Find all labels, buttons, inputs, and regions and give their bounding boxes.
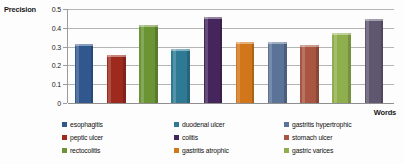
legend-item[interactable]: rectocolitis [62,147,174,154]
legend-item[interactable]: gastritis atrophic [174,147,284,154]
y-axis-tick-label: 0 [57,100,61,107]
bar-highlight [237,42,240,103]
y-axis-tick-mark [63,65,67,66]
bar-highlight [108,55,111,103]
bar-shadow [252,42,255,103]
bar-shadow [155,25,158,103]
bar[interactable] [204,17,223,103]
bar-top-cap [268,42,287,44]
bar-shadow [123,55,126,103]
legend-item[interactable]: esophagitis [62,121,174,128]
y-axis-tick-label: 0.5 [52,6,61,13]
bar-slot [132,9,164,103]
y-axis-tick-label: 0.3 [52,43,61,50]
legend-swatch-icon [62,135,67,140]
bar-top-cap [332,33,351,35]
x-axis-line [68,103,394,104]
legend-label: duodenal ulcer [182,121,225,128]
chart-legend: esophagitisduodenal ulcergastritis hyper… [62,118,382,157]
y-axis-tick-label: 0.1 [52,81,61,88]
legend-item[interactable]: gastric varices [284,147,382,154]
bar-slot [326,9,358,103]
legend-label: esophagitis [70,121,103,128]
bar-shadow [91,44,94,103]
bar[interactable] [365,19,384,103]
x-axis-title: Words [374,108,396,117]
bar[interactable] [171,49,190,103]
bar-highlight [302,45,305,103]
bar[interactable] [139,25,158,103]
bar-slot [261,9,293,103]
bar-highlight [173,49,176,103]
legend-swatch-icon [284,122,289,127]
y-axis-tick-label: 0.4 [52,24,61,31]
bar-slot [293,9,325,103]
legend-item[interactable]: gastritis hypertrophic [284,121,382,128]
legend-label: gastritis atrophic [182,147,229,154]
legend-label: peptic ulcer [70,134,103,141]
y-axis-tick-mark [63,47,67,48]
bar-top-cap [171,49,190,51]
y-axis-tick-label: 0.2 [52,62,61,69]
legend-swatch-icon [284,135,289,140]
legend-swatch-icon [62,122,67,127]
bar-top-cap [107,55,126,57]
y-axis-tick-mark [63,84,67,85]
bar-shadow [316,45,319,103]
legend-item[interactable]: stomach ulcer [284,134,382,141]
bar-highlight [334,33,337,104]
legend-label: colitis [182,134,198,141]
legend-label: rectocolitis [70,147,100,154]
precision-bar-chart: Precision 0.50.40.30.20.10 Words esophag… [0,0,404,164]
bar-top-cap [300,45,319,47]
y-axis-tick-mark [63,28,67,29]
legend-label: gastritis hypertrophic [292,121,351,128]
bar-highlight [269,42,272,103]
bar-highlight [141,25,144,103]
legend-label: stomach ulcer [292,134,332,141]
bar-highlight [366,19,369,103]
bar-slot [358,9,390,103]
bar-shadow [348,33,351,104]
legend-swatch-icon [62,148,67,153]
bar-top-cap [139,25,158,27]
legend-item[interactable]: peptic ulcer [62,134,174,141]
legend-item[interactable]: colitis [174,134,284,141]
bar-highlight [76,44,79,103]
bar-top-cap [204,17,223,19]
bar[interactable] [300,45,319,103]
legend-label: gastric varices [292,147,333,154]
y-axis-title: Precision [4,5,36,14]
bar-shadow [187,49,190,103]
bar-shadow [284,42,287,103]
bar[interactable] [332,33,351,104]
bar-shadow [381,19,384,103]
legend-swatch-icon [174,135,179,140]
bar-top-cap [365,19,384,21]
bar-slot [68,9,100,103]
legend-swatch-icon [174,122,179,127]
bar-shadow [220,17,223,103]
bar[interactable] [268,42,287,103]
legend-swatch-icon [284,148,289,153]
y-axis-tick-mark [63,9,67,10]
bar-slot [165,9,197,103]
bar-top-cap [75,44,94,46]
bar-series [68,9,390,103]
bar-slot [100,9,132,103]
legend-item[interactable]: duodenal ulcer [174,121,284,128]
legend-swatch-icon [174,148,179,153]
bar[interactable] [75,44,94,103]
bar-top-cap [236,42,255,44]
plot-area: 0.50.40.30.20.10 [42,9,394,107]
y-axis-tick-mark [63,103,67,104]
bar-slot [229,9,261,103]
bar-slot [197,9,229,103]
bar-highlight [205,17,208,103]
bar[interactable] [107,55,126,103]
y-axis-tick-labels: 0.50.40.30.20.10 [42,9,64,103]
bar[interactable] [236,42,255,103]
